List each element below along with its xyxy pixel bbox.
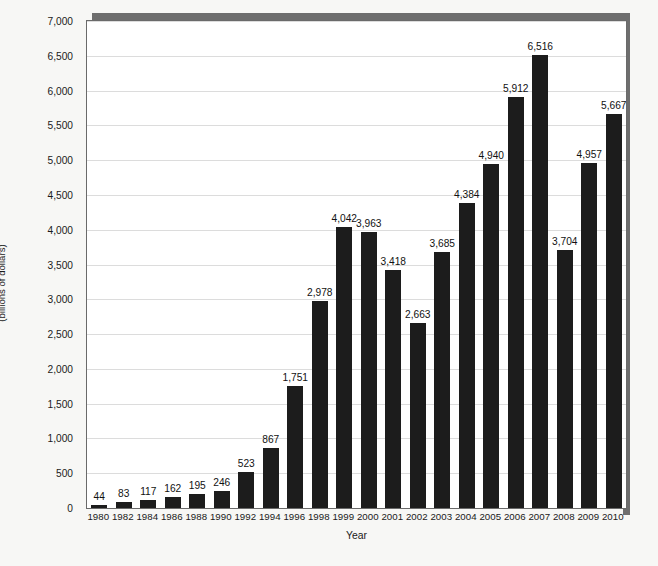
bar — [312, 301, 328, 508]
bar — [91, 505, 107, 508]
bar — [557, 250, 573, 508]
bar-value-label: 117 — [140, 486, 156, 497]
bar — [532, 55, 548, 508]
x-axis-tick-label: 2002 — [406, 511, 428, 522]
plot-shadow-top — [92, 13, 630, 20]
x-axis-tick-label: 1999 — [332, 511, 354, 522]
x-axis-tick-label: 2006 — [504, 511, 526, 522]
bar — [483, 164, 499, 508]
plot-area: 44831171621952465238671,7512,9784,0423,9… — [86, 20, 627, 509]
y-axis-tick-label: 5,500 — [48, 120, 74, 131]
y-axis-tick-label: 2,500 — [48, 329, 74, 340]
x-axis-tick-label: 1994 — [259, 511, 281, 522]
bar-value-label: 5,912 — [503, 83, 529, 94]
bar — [263, 448, 279, 508]
axis-baseline — [87, 508, 626, 509]
bar-value-label: 1,751 — [283, 372, 309, 383]
y-axis-tick-label: 1,000 — [48, 433, 74, 444]
x-axis-tick-label: 2003 — [430, 511, 452, 522]
x-axis-tick-label: 1980 — [87, 511, 109, 522]
bar-value-label: 4,384 — [454, 189, 480, 200]
bar-value-label: 3,418 — [381, 256, 407, 267]
bar-value-label: 2,663 — [405, 309, 431, 320]
bar-value-label: 83 — [118, 488, 129, 499]
x-axis-tick-label: 2007 — [528, 511, 550, 522]
bar-value-label: 195 — [189, 480, 206, 491]
y-axis-tick-label: 5,000 — [48, 155, 74, 166]
bar-value-label: 5,667 — [601, 100, 627, 111]
bar — [336, 227, 352, 508]
bar — [459, 203, 475, 508]
x-axis-tick-label: 1990 — [210, 511, 232, 522]
bar — [140, 500, 156, 508]
x-axis-tick-label: 1982 — [112, 511, 134, 522]
x-axis-title: Year — [86, 530, 627, 541]
y-axis-tick-label: 3,500 — [48, 259, 74, 270]
bar — [606, 114, 622, 508]
x-axis-tick-label: 2000 — [357, 511, 379, 522]
x-axis-tick-label: 1996 — [283, 511, 305, 522]
bar-value-label: 3,704 — [552, 236, 578, 247]
bar-value-label: 867 — [262, 434, 279, 445]
bar — [116, 502, 132, 508]
x-axis-tick-label: 1984 — [136, 511, 158, 522]
x-axis-tick-label: 2008 — [553, 511, 575, 522]
y-axis-tick-label: 4,000 — [48, 224, 74, 235]
y-axis-tick-label: 7,000 — [48, 16, 74, 27]
x-axis-tick-label: 2009 — [577, 511, 599, 522]
bar-value-label: 44 — [94, 491, 105, 502]
bar-value-label: 246 — [213, 477, 230, 488]
bar-value-label: 6,516 — [528, 41, 554, 52]
bar — [581, 163, 597, 508]
bar — [385, 270, 401, 508]
x-axis-tick-label: 1986 — [161, 511, 183, 522]
bar-value-label: 162 — [164, 483, 181, 494]
y-axis-tick-label: 3,000 — [48, 294, 74, 305]
bar — [287, 386, 303, 508]
bar — [165, 497, 181, 508]
bar — [434, 252, 450, 508]
bar — [361, 232, 377, 508]
bar-value-label: 523 — [238, 458, 255, 469]
y-axis-tick-label: 2,000 — [48, 363, 74, 374]
x-axis-tick-label: 1988 — [185, 511, 207, 522]
bar-value-label: 3,963 — [356, 218, 382, 229]
x-axis-tick-label: 2001 — [381, 511, 403, 522]
bar-value-label: 4,940 — [479, 150, 505, 161]
bar — [410, 323, 426, 508]
y-axis-tick-label: 6,000 — [48, 85, 74, 96]
bar — [508, 97, 524, 508]
bar-value-label: 2,978 — [307, 287, 333, 298]
y-axis-tick-label: 4,500 — [48, 189, 74, 200]
bar-value-label: 3,685 — [430, 238, 456, 249]
y-axis-tick-label: 0 — [67, 503, 73, 514]
x-axis-tick-label: 2004 — [455, 511, 477, 522]
bar — [238, 472, 254, 508]
x-axis-tick-labels: 1980198219841986198819901992199419961998… — [86, 511, 627, 529]
y-axis-tick-label: 500 — [56, 468, 73, 479]
bar — [214, 491, 230, 508]
bar-value-label: 4,957 — [577, 149, 603, 160]
x-axis-tick-label: 1992 — [234, 511, 256, 522]
bar-value-label: 4,042 — [332, 213, 358, 224]
y-axis-tick-labels: 05001,0001,5002,0002,5003,0003,5004,0004… — [0, 0, 82, 566]
y-axis-tick-label: 6,500 — [48, 50, 74, 61]
y-axis-tick-label: 1,500 — [48, 398, 74, 409]
bar — [189, 494, 205, 508]
x-axis-tick-label: 1998 — [308, 511, 330, 522]
gridline — [87, 21, 626, 22]
bar-chart-figure: Value of stocks owned through equity mut… — [0, 0, 658, 566]
x-axis-tick-label: 2010 — [602, 511, 624, 522]
x-axis-tick-label: 2005 — [479, 511, 501, 522]
